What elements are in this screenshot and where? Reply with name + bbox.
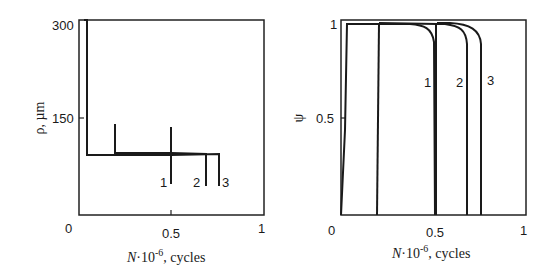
left-xtick-label-1: 1 bbox=[258, 221, 265, 236]
right-curves bbox=[341, 23, 481, 215]
left-xlabel-exp: -6 bbox=[155, 247, 163, 258]
left-xlabel-n: N bbox=[126, 250, 137, 265]
left-xlabel-tail: , cycles bbox=[163, 250, 205, 265]
left-panel: 1 2 3 300 150 0 0.5 1 ρ, µm N·10-6, cycl… bbox=[32, 18, 265, 265]
right-xtick-label-1: 1 bbox=[520, 223, 527, 238]
right-panel: 1 2 3 1 0.5 0 0.5 1 ψ N·10-6, cycles bbox=[291, 17, 527, 261]
right-curve-1 bbox=[379, 24, 435, 215]
left-xtick-label-05: 0.5 bbox=[162, 226, 180, 241]
left-curve-label-1: 1 bbox=[160, 175, 167, 190]
right-curve-label-1: 1 bbox=[424, 75, 431, 90]
left-curves bbox=[84, 20, 219, 186]
figure: 1 2 3 300 150 0 0.5 1 ρ, µm N·10-6, cycl… bbox=[0, 0, 553, 279]
right-xlabel-n: N bbox=[391, 246, 402, 261]
left-ytick-label-150: 150 bbox=[52, 111, 74, 126]
left-xlabel: N·10-6, cycles bbox=[126, 247, 205, 265]
left-ylabel: ρ, µm bbox=[32, 101, 47, 134]
right-curve-2 bbox=[379, 23, 467, 215]
left-axes-box bbox=[79, 20, 264, 215]
right-xlabel-mid: ·10 bbox=[401, 246, 420, 261]
right-xtick-label-05: 0.5 bbox=[426, 225, 444, 240]
right-xlabel: N·10-6, cycles bbox=[391, 243, 470, 261]
right-curve-start bbox=[341, 24, 379, 215]
right-ytick-label-05: 0.5 bbox=[316, 111, 334, 126]
right-xtick-label-0: 0 bbox=[328, 223, 335, 238]
right-ylabel: ψ bbox=[291, 113, 306, 122]
right-curve-3 bbox=[437, 23, 481, 215]
left-xlabel-mid: ·10 bbox=[136, 250, 155, 265]
right-ytick-label-1: 1 bbox=[330, 17, 337, 32]
left-curve-label-3: 3 bbox=[222, 175, 229, 190]
right-curve-drop-02 bbox=[377, 24, 379, 215]
right-curve-label-3: 3 bbox=[487, 73, 494, 88]
right-xlabel-tail: , cycles bbox=[428, 246, 470, 261]
right-xlabel-exp: -6 bbox=[420, 243, 428, 254]
left-ytick-label-300: 300 bbox=[52, 18, 74, 33]
left-xtick-label-0: 0 bbox=[65, 221, 72, 236]
right-curve-label-2: 2 bbox=[456, 75, 463, 90]
left-curve-label-2: 2 bbox=[193, 175, 200, 190]
left-curve-base bbox=[84, 20, 171, 155]
